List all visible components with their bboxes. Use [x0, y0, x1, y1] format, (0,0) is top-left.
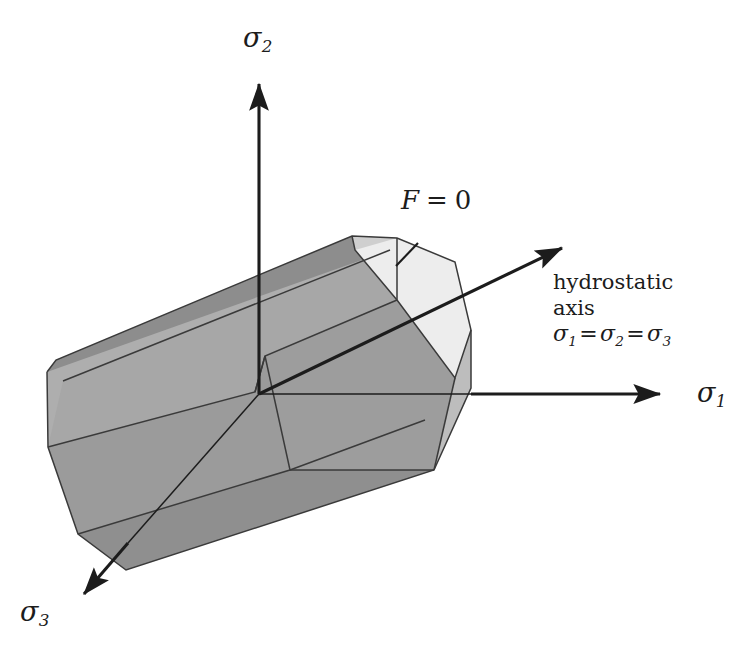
- sigma-1-symbol: σ: [697, 377, 715, 408]
- hydrostatic-equation: σ1=σ2=σ3: [553, 321, 673, 348]
- hydrostatic-axis-annotation: hydrostatic axis σ1=σ2=σ3: [553, 270, 673, 348]
- sigma-3-subscript: 3: [39, 610, 50, 630]
- sigma-3-symbol: σ: [20, 596, 38, 627]
- hydrostatic-annotation-line-2: axis: [553, 296, 673, 322]
- sigma-3-axis-label: σ3: [20, 598, 49, 625]
- sigma-1-axis-label: σ1: [697, 379, 726, 406]
- yield-function-operator: =: [419, 185, 455, 215]
- hydrostatic-annotation-line-1: hydrostatic: [553, 270, 673, 296]
- yield-function-label: F=0: [401, 187, 471, 213]
- sigma-2-symbol: σ: [243, 22, 261, 53]
- sigma-2-axis-label: σ2: [243, 24, 272, 51]
- sigma-2-subscript: 2: [262, 36, 273, 56]
- equation-sigma-3: σ3: [647, 321, 671, 346]
- equation-operator-1: =: [577, 321, 600, 346]
- yield-surface-figure: σ2 σ1 σ3 F=0 hydrostatic axis σ1=σ2=σ3: [0, 0, 756, 658]
- equation-operator-2: =: [624, 321, 647, 346]
- yield-function-symbol: F: [401, 185, 419, 215]
- yield-function-value: 0: [455, 185, 472, 215]
- sigma-1-subscript: 1: [716, 391, 727, 411]
- equation-sigma-2: σ2: [600, 321, 624, 346]
- equation-sigma-1: σ1: [553, 321, 577, 346]
